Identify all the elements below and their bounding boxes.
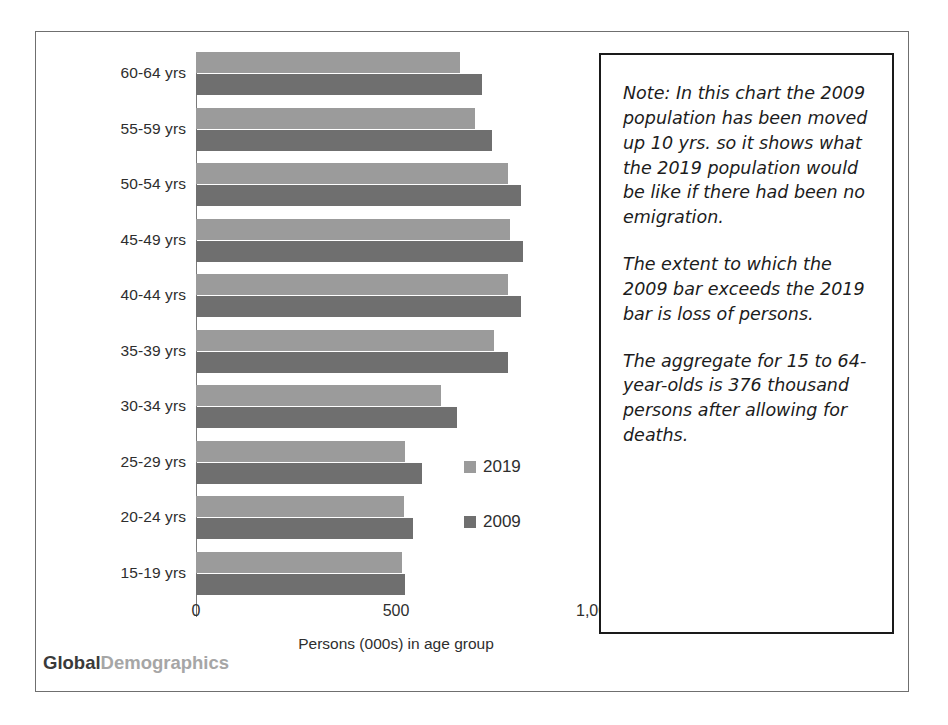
legend-item-2009[interactable]: 2009 — [464, 512, 521, 532]
brand-global-text: Global — [43, 652, 101, 673]
note-paragraph-1: Note: In this chart the 2009 population … — [623, 81, 872, 230]
bar-row: 15-19 yrs — [36, 550, 596, 604]
bar-2009 — [196, 241, 523, 262]
bar-row: 30-34 yrs — [36, 383, 596, 437]
bar-2009 — [196, 407, 457, 428]
legend-item-2019[interactable]: 2019 — [464, 457, 521, 477]
category-label: 15-19 yrs — [36, 564, 186, 582]
category-label: 35-39 yrs — [36, 342, 186, 360]
bar-2009 — [196, 574, 405, 595]
bar-row: 50-54 yrs — [36, 161, 596, 215]
chart-frame: 60-64 yrs55-59 yrs50-54 yrs45-49 yrs40-4… — [35, 31, 909, 692]
category-label: 30-34 yrs — [36, 397, 186, 415]
bar-2009 — [196, 352, 508, 373]
category-label: 55-59 yrs — [36, 120, 186, 138]
bar-row: 55-59 yrs — [36, 106, 596, 160]
note-paragraph-3: The aggregate for 15 to 64-year-olds is … — [623, 349, 872, 448]
bar-2009 — [196, 185, 521, 206]
bar-2019 — [196, 385, 441, 406]
note-box: Note: In this chart the 2009 population … — [599, 53, 894, 634]
bar-2009 — [196, 296, 521, 317]
tick-label: 500 — [383, 602, 410, 620]
bar-2019 — [196, 552, 402, 573]
bar-2019 — [196, 330, 494, 351]
category-label: 50-54 yrs — [36, 175, 186, 193]
bar-2009 — [196, 518, 413, 539]
legend-swatch-icon — [464, 516, 476, 528]
category-label: 60-64 yrs — [36, 64, 186, 82]
bar-row: 45-49 yrs — [36, 217, 596, 271]
plot-area: 60-64 yrs55-59 yrs50-54 yrs45-49 yrs40-4… — [36, 32, 596, 693]
axis-title: Persons (000s) in age group — [196, 635, 596, 653]
category-label: 25-29 yrs — [36, 453, 186, 471]
bar-2019 — [196, 163, 508, 184]
legend-swatch-icon — [464, 461, 476, 473]
bar-2009 — [196, 463, 422, 484]
tick-label: 0 — [192, 602, 201, 620]
bar-2019 — [196, 274, 508, 295]
category-label: 20-24 yrs — [36, 508, 186, 526]
legend-label: 2009 — [483, 512, 521, 532]
bar-row: 60-64 yrs — [36, 50, 596, 104]
brand-demographics-text: Demographics — [101, 652, 230, 673]
bar-2009 — [196, 74, 482, 95]
category-label: 45-49 yrs — [36, 231, 186, 249]
legend-label: 2019 — [483, 457, 521, 477]
bar-2019 — [196, 52, 460, 73]
bar-2019 — [196, 441, 405, 462]
note-paragraph-2: The extent to which the 2009 bar exceeds… — [623, 252, 872, 327]
bar-2019 — [196, 219, 510, 240]
bar-2009 — [196, 130, 492, 151]
bar-2019 — [196, 496, 404, 517]
brand-logo: GlobalDemographics — [43, 652, 229, 674]
bar-row: 35-39 yrs — [36, 328, 596, 382]
bar-row: 40-44 yrs — [36, 272, 596, 326]
bar-2019 — [196, 108, 475, 129]
category-label: 40-44 yrs — [36, 286, 186, 304]
